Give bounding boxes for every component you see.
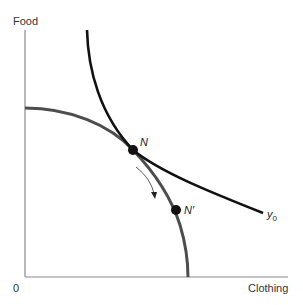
indifference-curve — [87, 30, 263, 213]
point-n — [128, 145, 138, 155]
point-n-prime — [171, 205, 181, 215]
trade-diagram: Food Clothing 0 N N′ y0 — [0, 0, 303, 305]
indifference-curve-label: y0 — [266, 208, 278, 223]
arrow-head-icon — [151, 192, 157, 199]
y-axis-label: Food — [13, 15, 38, 27]
point-n-label: N — [140, 136, 148, 148]
origin-label: 0 — [13, 282, 19, 294]
ppf-curve — [25, 108, 188, 277]
point-n-prime-label: N′ — [184, 204, 195, 216]
x-axis-label: Clothing — [248, 282, 288, 294]
